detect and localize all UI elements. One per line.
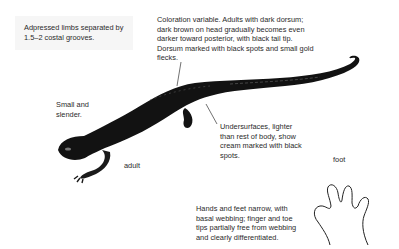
foot-outline-icon [314,185,368,245]
salamander-illustration [0,0,399,249]
undersurfaces-leader-line [206,104,217,124]
salamander-body-icon [58,56,359,183]
coloration-leader-line [177,62,181,86]
